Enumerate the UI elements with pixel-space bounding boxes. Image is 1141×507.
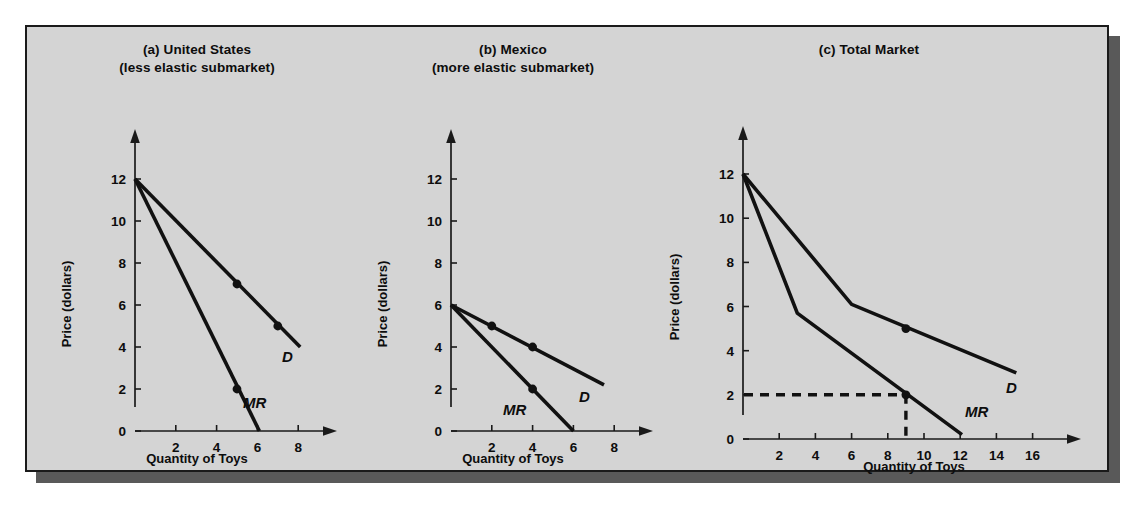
panel-a-x-axis-label: Quantity of Toys: [194, 472, 296, 474]
panel-a-y-axis-label: Price (dollars): [59, 261, 74, 348]
panel-c-ytick-10: 10: [719, 211, 734, 226]
panels-container: (a) United States (less elastic submarke…: [27, 27, 1111, 474]
panel-a-ytick-12: 12: [111, 172, 126, 187]
panel-a-demand-label: D: [282, 348, 293, 365]
panel-a-ytick-0: 0: [118, 424, 126, 439]
panel-b-ytick-6: 6: [434, 298, 442, 313]
panel-c-ytick-4: 4: [726, 344, 734, 359]
panel-a-plot: Price (dollars): [27, 27, 367, 474]
panel-c-y-ticks: 0 2 4 6 8 10 12: [719, 167, 749, 447]
panel-b-ytick-12: 12: [427, 172, 442, 187]
panel-c-demand-label: D: [1006, 379, 1017, 396]
panel-c-demand-curve: [743, 174, 1016, 373]
panel-c-xlabel-html: Quantity of Toys: [647, 459, 1111, 474]
panel-a-mr-point-1: [233, 385, 242, 394]
panel-b-ytick-2: 2: [434, 382, 442, 397]
panel-b-y-axis-arrow: [446, 129, 456, 143]
panel-c-x-axis-arrow: [1067, 434, 1081, 444]
panel-c-ytick-6: 6: [726, 300, 734, 315]
panel-a-mr-label: MR: [243, 394, 266, 411]
panel-b-demand-curve: [451, 305, 604, 385]
panel-a-ytick-2: 2: [118, 382, 126, 397]
panel-c-y-axis-arrow: [738, 126, 748, 140]
panel-a-mr-curve: [135, 179, 259, 431]
panel-a-x-axis-arrow: [323, 426, 337, 436]
panel-c-ytick-8: 8: [726, 255, 734, 270]
panel-c-mr-point-1: [902, 390, 911, 399]
panel-b-xlabel-html: Quantity of Toys: [343, 451, 683, 466]
panel-c-ytick-12: 12: [719, 167, 734, 182]
panel-a-demand-point-1: [233, 280, 242, 289]
panel-a-y-axis-arrow: [130, 129, 140, 143]
panel-b-demand-point-1: [487, 322, 496, 331]
panel-c-ytick-2: 2: [726, 388, 734, 403]
panel-c-mr-label: MR: [965, 403, 988, 420]
panel-b-plot: Price (dollars) 0 2: [343, 27, 683, 474]
panel-a-ytick-4: 4: [118, 340, 126, 355]
panel-c-y-axis-label: Price (dollars): [667, 254, 682, 341]
panel-b-ytick-4: 4: [434, 340, 442, 355]
panel-a-ytick-8: 8: [118, 256, 126, 271]
panel-a-ytick-10: 10: [111, 214, 126, 229]
panel-b-y-axis-label: Price (dollars): [375, 261, 390, 348]
panel-b-mr-point-1: [528, 385, 537, 394]
figure-root: (a) United States (less elastic submarke…: [0, 0, 1141, 507]
panel-mexico: (b) Mexico (more elastic submarket) Pric…: [343, 27, 683, 474]
panel-b-ytick-0: 0: [434, 424, 442, 439]
panel-c-ytick-0: 0: [726, 432, 734, 447]
panel-a-y-ticks: 0 2 4 6 8 10 12: [111, 172, 141, 439]
figure-frame: (a) United States (less elastic submarke…: [25, 25, 1109, 472]
panel-a-ytick-6: 6: [118, 298, 126, 313]
panel-total-market: (c) Total Market Price (dollars): [647, 27, 1111, 474]
panel-b-mr-label: MR: [503, 401, 526, 418]
panel-b-ytick-10: 10: [427, 214, 442, 229]
panel-a-xlabel-html: Quantity of Toys: [27, 451, 367, 466]
panel-b-ytick-8: 8: [434, 256, 442, 271]
panel-a-demand-curve: [135, 179, 300, 347]
panel-b-demand-point-2: [528, 343, 537, 352]
panel-b-demand-label: D: [579, 388, 590, 405]
panel-a-demand-point-2: [273, 322, 282, 331]
panel-c-demand-point-1: [902, 324, 911, 333]
panel-united-states: (a) United States (less elastic submarke…: [27, 27, 367, 474]
panel-c-plot: Price (dollars) 0: [647, 27, 1111, 474]
